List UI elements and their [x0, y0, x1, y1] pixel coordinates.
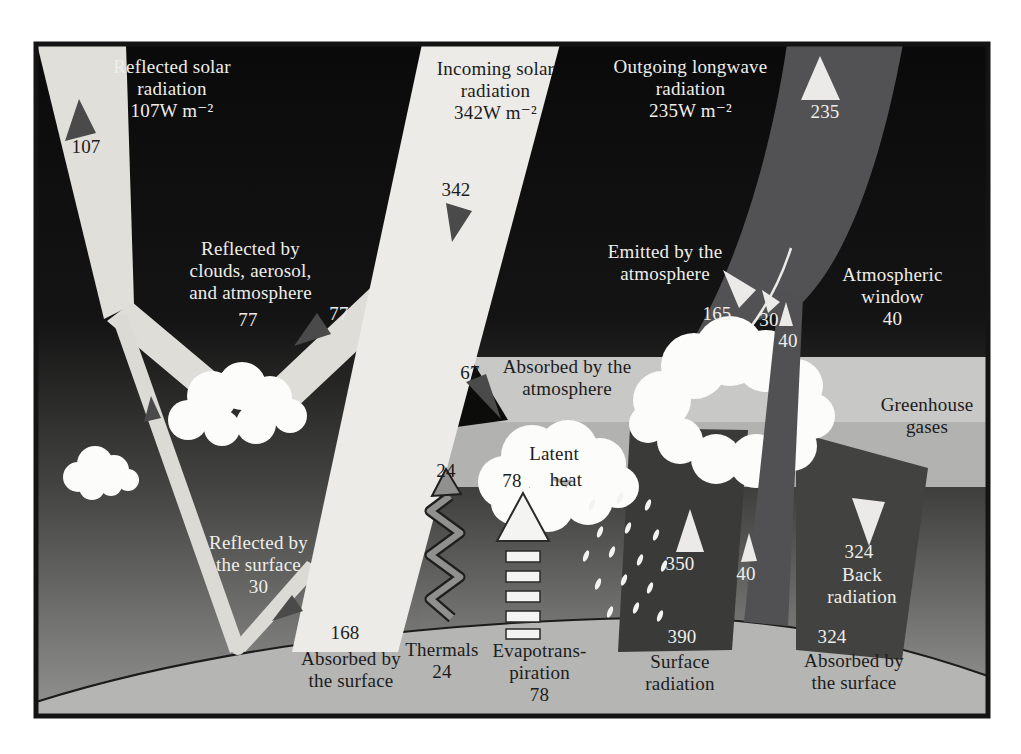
value-40-top: 40 [770, 330, 806, 352]
energy-budget-diagram: Reflected solar radiation 107W m⁻² 107 I… [0, 0, 1021, 754]
outgoing-longwave-title: Outgoing longwave radiation 235W m⁻² [593, 56, 788, 122]
value-350: 350 [656, 553, 704, 575]
absorbed-atmosphere-label: Absorbed by the atmosphere [487, 356, 647, 400]
surface-radiation-label: Surface radiation [628, 651, 732, 695]
absorbed-surface-left-label: Absorbed by the surface [292, 648, 410, 692]
greenhouse-gases-label: Greenhouse gases [863, 394, 991, 438]
heat-word: heat [534, 469, 598, 491]
incoming-solar-title: Incoming solar radiation 342W m⁻² [398, 58, 593, 124]
emitted-atmosphere-label: Emitted by the atmosphere [590, 241, 740, 285]
value-165: 165 [694, 303, 740, 325]
value-67: 67 [450, 362, 490, 384]
reflected-surface-label: Reflected by the surface 30 [196, 532, 321, 598]
evapotranspiration-label: Evapotrans- piration 78 [482, 640, 597, 706]
value-40-bottom: 40 [726, 563, 766, 585]
value-78-latent: 78 [492, 470, 532, 492]
value-30-emit: 30 [751, 309, 787, 331]
reflected-solar-title: Reflected solar radiation 107W m⁻² [77, 56, 267, 122]
value-168: 168 [318, 622, 372, 644]
value-390: 390 [658, 626, 706, 648]
value-107: 107 [60, 136, 112, 158]
back-radiation-label: Back radiation [812, 564, 912, 608]
value-324-top: 324 [833, 541, 885, 563]
absorbed-surface-right-label: Absorbed by the surface [780, 650, 928, 694]
latent-word: Latent [516, 443, 592, 465]
value-342: 342 [430, 179, 482, 201]
value-24-top: 24 [426, 460, 466, 482]
value-77-b: 77 [317, 303, 361, 325]
value-324-bottom: 324 [806, 626, 858, 648]
reflected-clouds-label: Reflected by clouds, aerosol, and atmosp… [158, 238, 343, 304]
value-77-a: 77 [226, 309, 270, 331]
thermals-label: Thermals 24 [396, 639, 488, 683]
atmospheric-window-label: Atmospheric window 40 [820, 264, 965, 330]
value-235: 235 [797, 101, 853, 123]
